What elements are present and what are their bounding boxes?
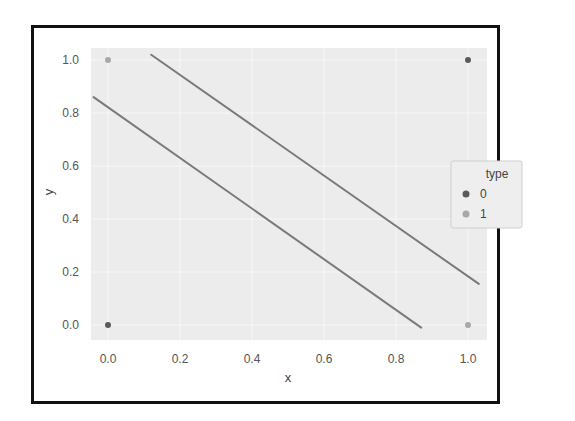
data-point-type-0	[105, 322, 111, 328]
y-tick-label: 0.0	[62, 318, 79, 332]
y-tick-label: 0.2	[62, 265, 79, 279]
y-tick-label: 1.0	[62, 53, 79, 67]
x-tick-label: 0.8	[388, 352, 405, 366]
data-point-type-1	[465, 322, 471, 328]
y-tick-labels: 0.00.20.40.60.81.0	[62, 53, 79, 332]
y-axis-label: y	[41, 188, 56, 195]
legend-title: type	[486, 167, 509, 181]
y-tick-label: 0.8	[62, 106, 79, 120]
legend-label-type-0: 0	[480, 187, 487, 201]
legend-marker-type-1	[463, 211, 470, 218]
x-tick-label: 1.0	[460, 352, 477, 366]
legend-label-type-1: 1	[480, 207, 487, 221]
y-tick-label: 0.4	[62, 212, 79, 226]
y-tick-label: 0.6	[62, 159, 79, 173]
plot-area	[91, 48, 487, 340]
x-tick-label: 0.0	[100, 352, 117, 366]
data-point-type-0	[465, 57, 471, 63]
x-axis-label: x	[285, 370, 292, 385]
x-tick-labels: 0.00.20.40.60.81.0	[100, 352, 477, 366]
legend: type 01	[451, 161, 522, 228]
data-point-type-1	[105, 57, 111, 63]
scatter-chart: 0.00.20.40.60.81.0 0.00.20.40.60.81.0 x …	[0, 0, 575, 421]
x-tick-label: 0.6	[316, 352, 333, 366]
x-tick-label: 0.4	[244, 352, 261, 366]
x-tick-label: 0.2	[172, 352, 189, 366]
legend-marker-type-0	[463, 191, 470, 198]
